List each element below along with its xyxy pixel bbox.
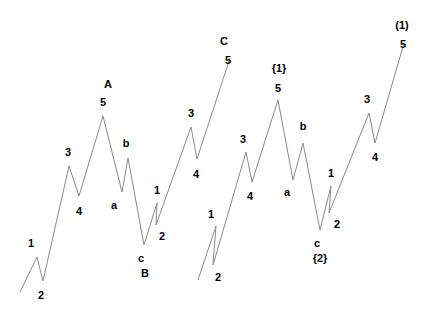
wave-label-4-19: 4 (247, 191, 253, 202)
wave-label-4-29: 4 (372, 152, 378, 163)
wave-label-3-2: 3 (65, 147, 71, 158)
wave-label-A-4: A (104, 79, 112, 90)
wave-label-3-28: 3 (364, 94, 370, 105)
wave-plot-area (0, 0, 427, 319)
wave-label-2-17: 2 (215, 272, 221, 283)
wave-label-4-13: 4 (193, 169, 199, 180)
wave-label-2-11: 2 (159, 231, 165, 242)
wave-label-1-30: (1) (395, 20, 408, 31)
wave-label-5-21: 5 (275, 83, 281, 94)
elliott-wave-diagram: 1234A5abcB1234C51234{1}5abc{2}1234(1)5 (0, 0, 427, 319)
wave-label-5-31: 5 (400, 39, 406, 50)
wave-label-3-12: 3 (188, 108, 194, 119)
wave-label-c-8: c (138, 253, 144, 264)
wave-series-group (20, 43, 404, 292)
wave-label-2-27: 2 (334, 219, 340, 230)
wave-label-1-16: 1 (208, 209, 214, 220)
wave-label-1-20: {1} (272, 63, 287, 74)
wave-label-a-6: a (111, 200, 117, 211)
wave-label-1-26: 1 (328, 168, 334, 179)
wave-label-5-5: 5 (100, 97, 106, 108)
wave-label-a-22: a (284, 187, 290, 198)
wave-label-c-24: c (314, 238, 320, 249)
wave-label-1-10: 1 (154, 185, 160, 196)
wave-label-C-14: C (220, 36, 228, 47)
wave-label-2-25: {2} (313, 253, 328, 264)
wave-label-1-0: 1 (28, 238, 34, 249)
wave-label-b-7: b (123, 138, 130, 149)
wave-label-B-9: B (141, 268, 149, 279)
wave-label-4-3: 4 (76, 206, 82, 217)
wave-label-5-15: 5 (225, 55, 231, 66)
wave-label-b-23: b (300, 121, 307, 132)
wave-label-2-1: 2 (38, 290, 44, 301)
wave-label-3-18: 3 (240, 134, 246, 145)
